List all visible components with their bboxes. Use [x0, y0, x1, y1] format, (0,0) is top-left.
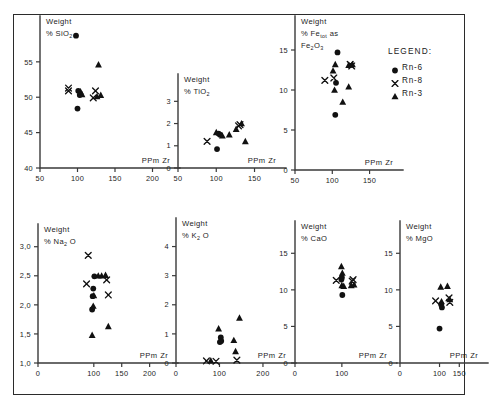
y-axis-sio2: 40455055	[24, 58, 40, 173]
data-point-circle	[90, 286, 96, 292]
y-tick-label: 15	[279, 46, 288, 55]
panel-title-line1: Weight	[46, 17, 72, 26]
x-tick-label: 50	[36, 174, 45, 183]
y-tick-label: 0	[167, 164, 171, 173]
panel-title-line2: % K2 O	[182, 231, 209, 241]
data-point-triangle	[438, 298, 445, 304]
panel-mgo: 0510150100150PPm ZrWeight% MgO	[366, 189, 493, 389]
legend-item-rn-3: Rn-3	[388, 87, 468, 100]
data-point-triangle	[97, 92, 104, 98]
data-point-circle	[437, 326, 443, 332]
data-point-triangle	[345, 83, 352, 89]
x-axis-sio2: 50100150200	[36, 168, 160, 183]
y-axis-k2o: 01234	[165, 242, 176, 367]
x-tick-label: 100	[433, 369, 446, 378]
y-tick-label: 4	[165, 242, 169, 251]
y-tick-label: 5	[284, 126, 288, 135]
data-point-triangle	[215, 325, 222, 331]
data-point-x	[85, 253, 91, 259]
y-axis-mgo: 051015	[384, 249, 400, 368]
panel-title-line1: Weight	[301, 222, 327, 231]
data-point-x	[322, 78, 328, 84]
y-axis-fe2o3: 051015	[279, 46, 295, 175]
x-tick-label: 0	[293, 369, 297, 378]
data-point-triangle	[330, 67, 337, 73]
data-point-circle	[217, 339, 223, 345]
data-point-triangle	[331, 86, 338, 92]
data-points-cao	[333, 263, 357, 298]
data-point-triangle	[102, 272, 109, 278]
legend-item-label: Rn-3	[402, 89, 423, 98]
data-point-triangle	[95, 61, 102, 67]
data-point-x	[105, 292, 111, 298]
x-tick-label: 0	[174, 369, 178, 378]
data-point-circle	[214, 146, 220, 152]
y-tick-label: 3	[167, 97, 171, 106]
y-tick-label: 10	[384, 286, 393, 295]
data-point-triangle	[338, 263, 345, 269]
data-point-circle	[73, 33, 79, 39]
y-tick-label: 40	[24, 164, 33, 173]
data-point-x	[84, 281, 90, 287]
y-tick-label: 0	[284, 166, 288, 175]
x-tick-label: 100	[326, 176, 339, 185]
y-tick-label: 0	[165, 359, 169, 368]
y-tick-label: 1,0	[20, 359, 31, 368]
data-point-circle	[339, 292, 345, 298]
y-tick-label: 1,5	[20, 330, 31, 339]
x-axis-title: PPm Zr	[450, 351, 479, 360]
data-point-triangle	[105, 323, 112, 329]
y-tick-label: 55	[24, 58, 33, 67]
data-point-triangle	[332, 61, 339, 67]
data-point-x	[331, 75, 337, 81]
x-tick-label: 50	[291, 176, 300, 185]
x-tick-label: 150	[363, 176, 376, 185]
x-tick-label: 100	[210, 174, 223, 183]
data-point-triangle	[339, 98, 346, 104]
data-point-x	[234, 357, 240, 363]
x-tick-label: 100	[71, 174, 84, 183]
y-tick-label: 5	[389, 322, 393, 331]
y-tick-label: 0	[284, 359, 288, 368]
legend-rows: Rn-6Rn-8Rn-3	[388, 61, 468, 100]
data-point-triangle	[437, 283, 444, 289]
y-tick-label: 3,0	[20, 242, 31, 251]
x-tick-label: 150	[115, 369, 128, 378]
legend-item-label: Rn-8	[402, 76, 423, 85]
x-axis-fe2o3: 50100150	[291, 170, 377, 185]
data-point-circle	[335, 50, 341, 56]
panel-title-line2: % Fetot as	[301, 29, 338, 39]
data-point-triangle	[236, 314, 243, 320]
y-tick-label: 50	[24, 93, 33, 102]
y-axis-na2o: 1,01,52,02,53,0	[20, 242, 38, 367]
panel-title-line2: % MgO	[406, 234, 433, 243]
x-axis-cao: 0100	[293, 363, 349, 378]
x-marker-icon	[388, 75, 402, 87]
panel-title-line1: Weight	[301, 17, 327, 26]
y-tick-label: 3	[165, 271, 169, 280]
x-axis-title: PPm Zr	[365, 158, 394, 167]
data-point-triangle	[444, 283, 451, 289]
y-axis-tio2: 0123	[167, 97, 178, 173]
x-tick-label: 100	[335, 369, 348, 378]
data-point-triangle	[90, 302, 97, 308]
y-tick-label: 15	[384, 249, 393, 258]
x-tick-label: 0	[398, 369, 402, 378]
x-tick-label: 150	[108, 174, 121, 183]
data-point-x	[433, 298, 439, 304]
x-axis-mgo: 0100150	[398, 363, 466, 378]
y-tick-label: 2,5	[20, 271, 31, 280]
legend-item-rn-6: Rn-6	[388, 61, 468, 74]
y-tick-label: 5	[284, 322, 288, 331]
y-tick-label: 10	[279, 86, 288, 95]
x-tick-label: 50	[174, 174, 183, 183]
x-tick-label: 150	[248, 174, 261, 183]
data-point-triangle	[89, 331, 96, 337]
x-axis-na2o: 0100150200	[36, 363, 156, 378]
y-tick-label: 2,0	[20, 301, 31, 310]
panel-title-line1: Weight	[44, 225, 70, 234]
x-axis-tio2: 50100150	[174, 168, 262, 183]
circle-marker-icon	[388, 62, 402, 74]
data-points-sio2	[66, 33, 105, 112]
